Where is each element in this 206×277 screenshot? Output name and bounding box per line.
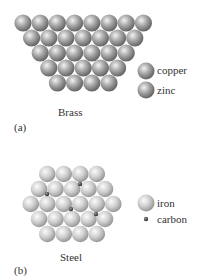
carbon-atom — [78, 182, 82, 186]
atom — [39, 196, 56, 213]
atom — [97, 181, 114, 198]
atom — [97, 211, 114, 228]
legend-copper-label: copper — [157, 64, 187, 76]
atom — [66, 14, 83, 31]
atom — [135, 14, 152, 31]
atom — [23, 29, 40, 46]
legend-carbon-label: carbon — [157, 213, 187, 225]
atom — [72, 226, 89, 243]
atom — [64, 211, 81, 228]
panel-b-tag: (b) — [14, 264, 27, 276]
atom — [40, 29, 57, 46]
atom — [105, 196, 122, 213]
steel-lattice — [22, 166, 121, 243]
atom — [47, 181, 64, 198]
atom — [72, 196, 89, 213]
atom — [88, 166, 105, 183]
panel-a-tag: (a) — [14, 121, 26, 133]
atom — [88, 196, 105, 213]
atom — [64, 181, 81, 198]
atom — [88, 226, 105, 243]
atom — [49, 14, 66, 31]
atom — [100, 44, 117, 61]
atom — [14, 14, 31, 31]
atom — [22, 196, 39, 213]
atom — [40, 59, 57, 76]
legend-iron-swatch — [138, 195, 155, 212]
legend-copper-swatch — [138, 63, 155, 80]
atom — [47, 211, 64, 228]
atom — [118, 14, 135, 31]
atom — [66, 74, 83, 91]
atom — [92, 59, 109, 76]
atom — [126, 29, 143, 46]
atom — [92, 29, 109, 46]
atom — [57, 29, 74, 46]
atom — [39, 226, 56, 243]
atom — [31, 181, 48, 198]
brass-lattice — [14, 14, 152, 91]
atom — [49, 74, 66, 91]
atom — [80, 181, 97, 198]
brass-caption: Brass — [58, 106, 82, 118]
steel-caption: Steel — [60, 251, 82, 263]
atom — [83, 74, 100, 91]
atom — [57, 59, 74, 76]
atom — [32, 14, 49, 31]
legend-zinc-label: zinc — [157, 84, 175, 96]
atom — [83, 44, 100, 61]
legend-iron-label: iron — [157, 197, 175, 209]
atom — [32, 44, 49, 61]
atom — [83, 14, 100, 31]
legend-carbon-swatch — [144, 217, 148, 221]
carbon-atom — [69, 207, 73, 211]
atom — [72, 166, 89, 183]
atom — [39, 166, 56, 183]
atom — [55, 166, 72, 183]
atom — [118, 44, 135, 61]
atom — [75, 59, 92, 76]
atom — [109, 29, 126, 46]
carbon-atom — [94, 212, 98, 216]
alloy-diagram — [0, 0, 206, 277]
legend-zinc-swatch — [138, 82, 155, 99]
atom — [109, 59, 126, 76]
atom — [31, 211, 48, 228]
atom — [66, 44, 83, 61]
atom — [49, 44, 66, 61]
carbon-atom — [45, 192, 49, 196]
atom — [100, 74, 117, 91]
atom — [100, 14, 117, 31]
atom — [75, 29, 92, 46]
atom — [55, 226, 72, 243]
